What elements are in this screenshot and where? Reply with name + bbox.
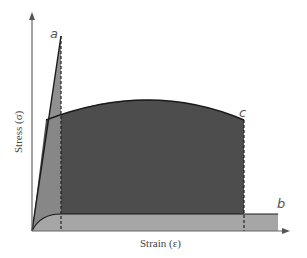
x-axis-arrow-icon <box>282 228 290 234</box>
curve-b-label: b <box>277 196 285 211</box>
region-c-overlay <box>61 100 244 214</box>
curve-c-label: c <box>239 105 246 120</box>
curve-a-label: a <box>50 26 58 41</box>
stress-strain-diagram: a c b Strain (ε) Stress (σ) <box>0 0 307 258</box>
y-axis-arrow-icon <box>29 12 35 20</box>
y-axis-label: Stress (σ) <box>12 110 25 153</box>
x-axis-label: Strain (ε) <box>140 237 181 250</box>
region-b-area <box>32 214 278 231</box>
